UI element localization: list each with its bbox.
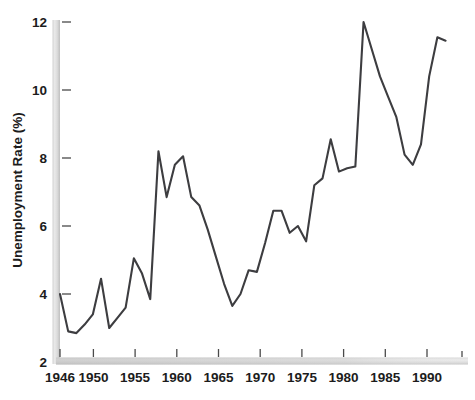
x-tick-label-1990: 1990 bbox=[412, 370, 442, 385]
y-tick-labels: 12 10 8 6 4 2 bbox=[32, 15, 48, 370]
y-tick-label-2: 2 bbox=[39, 355, 47, 370]
y-tick-label-8: 8 bbox=[39, 151, 47, 166]
y-axis-title: Unemployment Rate (%) bbox=[10, 112, 25, 267]
y-tick-label-4: 4 bbox=[39, 287, 47, 302]
y-tick-label-10: 10 bbox=[32, 83, 47, 98]
y-tick-label-12: 12 bbox=[32, 15, 47, 30]
x-tick-label-1985: 1985 bbox=[370, 370, 401, 385]
unemployment-rate-chart: 12 10 8 6 4 2 1946 1950 1955 1960 bbox=[0, 0, 475, 400]
x-tick-label-1946: 1946 bbox=[45, 370, 76, 385]
y-tick-label-6: 6 bbox=[39, 219, 47, 234]
x-tick-label-1970: 1970 bbox=[245, 370, 275, 385]
x-tick-label-1965: 1965 bbox=[203, 370, 234, 385]
x-tick-labels: 1946 1950 1955 1960 1965 1970 1975 1980 … bbox=[45, 370, 442, 385]
x-tick-label-1960: 1960 bbox=[162, 370, 192, 385]
x-tick-label-1955: 1955 bbox=[120, 370, 151, 385]
x-tick-label-1950: 1950 bbox=[78, 370, 108, 385]
x-tick-label-1980: 1980 bbox=[329, 370, 359, 385]
x-axis-bar-fade bbox=[56, 358, 468, 365]
plot-area-background bbox=[60, 18, 468, 362]
x-tick-label-1975: 1975 bbox=[287, 370, 318, 385]
chart-svg: 12 10 8 6 4 2 1946 1950 1955 1960 bbox=[0, 0, 475, 400]
y-axis-bar bbox=[53, 20, 61, 364]
